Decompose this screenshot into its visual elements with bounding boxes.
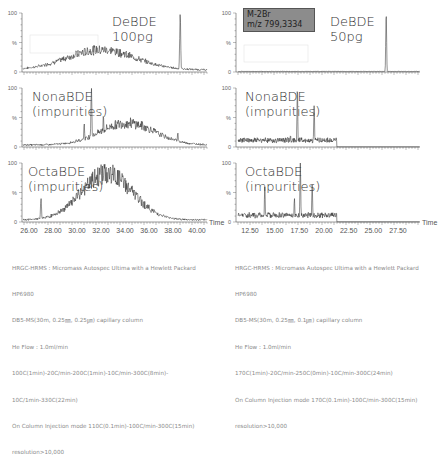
- note-line: He Flow : 1.0ml/min: [12, 343, 196, 352]
- chart-panel-left-middle: 100%0NonaBDE(impurities): [8, 85, 207, 150]
- note-line: DB5-MS(30m, 0.25㎜, 0.1㎛) capillary colum…: [235, 316, 419, 325]
- panel-label: (impurities): [28, 179, 103, 194]
- y-tick-label: %: [226, 190, 231, 196]
- x-axis-label: Time: [422, 219, 437, 226]
- x-tick-label: 20.00: [315, 227, 333, 234]
- x-tick-label: 40.00: [188, 227, 206, 234]
- panel-label: (impurities): [245, 104, 320, 119]
- panel-label: OctaBDE: [28, 164, 85, 179]
- x-tick-label: 38.00: [164, 227, 182, 234]
- notes-right: HRGC-HRMS : Micromass Autospec Ultima wi…: [235, 246, 419, 440]
- x-tick-label: 22.50: [340, 227, 358, 234]
- x-tick-label: 28.00: [44, 227, 62, 234]
- y-tick-label: 0: [14, 144, 17, 150]
- note-line: 10C/1min-330C(22min): [12, 396, 196, 405]
- panel-label: 100pg: [112, 29, 153, 44]
- y-tick-label: 0: [14, 69, 17, 75]
- y-tick-label: %: [12, 115, 17, 121]
- y-tick-label: 100: [8, 85, 17, 91]
- note-line: HP6980: [12, 290, 196, 299]
- y-tick-label: %: [226, 115, 231, 121]
- chart-panel-left-bottom: 100%026.0028.0030.0032.0034.0036.0038.00…: [8, 160, 225, 234]
- chart-panel-left-top: 100%0DeBDE100pg: [8, 10, 207, 75]
- chart-panel-right-bottom: 100%012.5015.0017.5020.0022.5025.0027.50…: [222, 160, 438, 234]
- note-line: 170C(1min)-20C/min-250C(0min)-10C/min-30…: [235, 369, 419, 378]
- note-line: 100C(1min)-20C/min-200C(1min)-10C/min-30…: [12, 369, 196, 378]
- y-tick-label: 100: [222, 160, 231, 166]
- x-tick-label: 15.00: [266, 227, 284, 234]
- notes-left: HRGC-HRMS : Micromass Autospec Ultima wi…: [12, 246, 196, 459]
- note-line: HRGC-HRMS : Micromass Autospec Ultima wi…: [235, 264, 419, 273]
- panel-label: 50pg: [330, 29, 363, 44]
- y-tick-label: 0: [228, 69, 231, 75]
- y-tick-label: %: [12, 40, 17, 46]
- y-tick-label: %: [12, 190, 17, 196]
- panel-label: OctaBDE: [245, 164, 302, 179]
- ion-annotation-box: M-2Br m/z 799,3334: [243, 8, 315, 32]
- y-tick-label: 100: [8, 160, 17, 166]
- y-tick-label: %: [226, 40, 231, 46]
- panel-label: NonaBDE: [245, 89, 306, 104]
- ion-label: M-2Br: [247, 10, 311, 20]
- panel-label: (impurities): [245, 179, 320, 194]
- x-tick-label: 32.00: [92, 227, 110, 234]
- y-tick-label: 0: [14, 219, 17, 225]
- note-line: He Flow : 1.0ml/min: [235, 343, 419, 352]
- x-tick-label: 12.50: [241, 227, 259, 234]
- note-line: resolution>10,000: [235, 422, 419, 431]
- note-line: DB5-MS(30m, 0.25㎜, 0.25㎛) capillary colu…: [12, 316, 196, 325]
- ghost-box: [244, 45, 308, 62]
- y-tick-label: 0: [228, 144, 231, 150]
- y-tick-label: 0: [228, 219, 231, 225]
- x-tick-label: 26.00: [20, 227, 38, 234]
- mz-label: m/z 799,3334: [247, 20, 311, 30]
- panel-label: NonaBDE: [32, 89, 93, 104]
- x-tick-label: 30.00: [68, 227, 86, 234]
- x-tick-label: 25.00: [365, 227, 383, 234]
- x-tick-label: 34.00: [116, 227, 134, 234]
- panel-label: DeBDE: [112, 14, 157, 29]
- y-tick-label: 100: [8, 10, 17, 16]
- x-tick-label: 36.00: [140, 227, 158, 234]
- y-tick-label: 100: [222, 10, 231, 16]
- note-line: On Column Injection mode 110C(0.1min)-10…: [12, 422, 196, 431]
- x-axis-label: Time: [209, 219, 224, 226]
- panel-label: DeBDE: [330, 14, 375, 29]
- y-tick-label: 100: [222, 85, 231, 91]
- note-line: HP6980: [235, 290, 419, 299]
- x-tick-label: 27.50: [389, 227, 407, 234]
- x-tick-label: 17.50: [291, 227, 309, 234]
- note-line: resolution>10,000: [12, 448, 196, 457]
- note-line: On Column Injection mode 170C(0.1min)-10…: [235, 396, 419, 405]
- panel-label: (impurities): [32, 104, 107, 119]
- note-line: HRGC-HRMS : Micromass Autospec Ultima wi…: [12, 264, 196, 273]
- chart-panel-right-middle: 100%0NonaBDE(impurities): [222, 85, 420, 150]
